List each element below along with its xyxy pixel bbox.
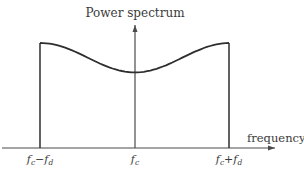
tick-label-fc: fc bbox=[130, 153, 140, 167]
y-axis-label: Power spectrum bbox=[85, 6, 185, 20]
tick-sub2: d bbox=[237, 158, 242, 167]
power-spectrum-diagram: Power spectrum frequency fc−fd fc fc+fd bbox=[0, 0, 304, 172]
tick-sub2: d bbox=[48, 158, 53, 167]
tick-label-fc-plus-fd: fc+fd bbox=[215, 153, 243, 167]
x-axis-label: frequency bbox=[247, 131, 304, 145]
tick-op: − bbox=[35, 153, 44, 166]
tick-label-fc-minus-fd: fc−fd bbox=[26, 153, 54, 167]
tick-sub: c bbox=[135, 158, 140, 167]
tick-op: + bbox=[224, 153, 233, 166]
